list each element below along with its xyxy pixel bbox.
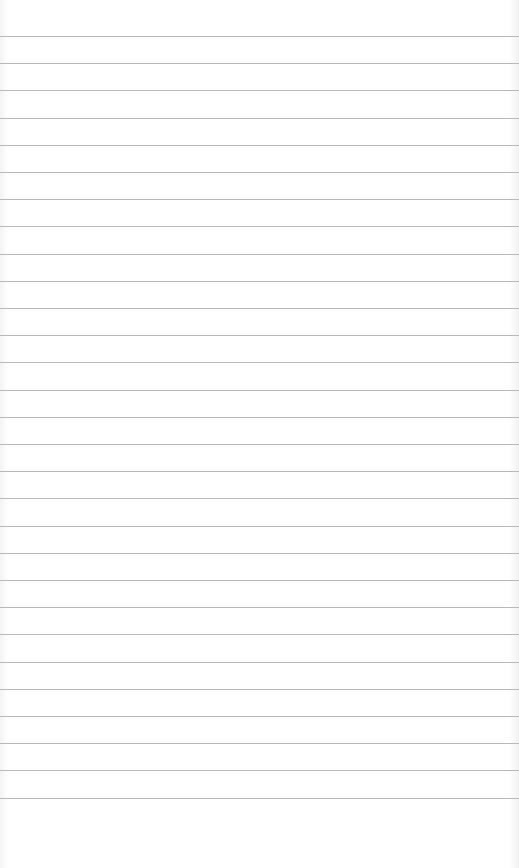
ruled-line [0, 662, 519, 663]
ruled-line [0, 444, 519, 445]
ruled-line [0, 716, 519, 717]
ruled-line [0, 254, 519, 255]
ruled-line [0, 226, 519, 227]
ruled-line [0, 281, 519, 282]
ruled-line [0, 634, 519, 635]
ruled-paper-page [0, 0, 519, 868]
ruled-line [0, 145, 519, 146]
ruled-line [0, 172, 519, 173]
ruled-line [0, 308, 519, 309]
ruled-line [0, 689, 519, 690]
ruled-line [0, 63, 519, 64]
ruled-line [0, 743, 519, 744]
ruled-line [0, 471, 519, 472]
ruled-line [0, 770, 519, 771]
ruled-line [0, 390, 519, 391]
ruled-line [0, 362, 519, 363]
ruled-line [0, 580, 519, 581]
ruled-line [0, 553, 519, 554]
ruled-line [0, 607, 519, 608]
ruled-line [0, 335, 519, 336]
ruled-line [0, 498, 519, 499]
ruled-line [0, 118, 519, 119]
ruled-line [0, 798, 519, 799]
ruled-line [0, 90, 519, 91]
ruled-line [0, 36, 519, 37]
ruled-line [0, 417, 519, 418]
ruled-line [0, 199, 519, 200]
ruled-line [0, 526, 519, 527]
